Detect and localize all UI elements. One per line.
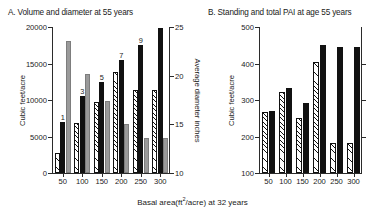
panel-a-bar-value-label: 3 (80, 87, 84, 96)
panel-a-xtick-label: 300 (154, 177, 167, 186)
panel-b-ytick (255, 27, 259, 28)
panel-b-xtick-label: 300 (347, 177, 360, 186)
panel-b-ytick-label: 500 (241, 23, 254, 32)
panel-a-y2tick (170, 173, 174, 174)
panel-a-ylabel-left: Cubic feet/acre (18, 75, 27, 126)
panel-a-bar-black-bar-150: 5 (99, 82, 104, 173)
panel-a-bar-hatched-bar-300 (152, 90, 157, 173)
panel-b-xtick-label: 100 (279, 177, 292, 186)
panel-b-plot-area: 10020030040050050100150200250300 (259, 27, 362, 174)
xaxis-label-suffix: /acre) at 32 years (186, 198, 248, 207)
panel-b-ytick (255, 173, 259, 174)
panel-b-ytick (255, 100, 259, 101)
panel-a-bar-hatched-bar-100 (74, 123, 79, 173)
panel-a-y2tick (170, 27, 174, 28)
panel-a-ytick (48, 173, 52, 174)
panel-a-xtick-label: 250 (134, 177, 147, 186)
panel-a-ytick (48, 64, 52, 65)
panel-a-y2tick-label: 20 (175, 71, 183, 80)
panel-b-bar-standing-pai-150 (296, 118, 302, 173)
panel-a-plot-area: 0500010000150002000010152025501100315052… (52, 27, 170, 174)
shared-xaxis-label: Basal area(ft2/acre) at 32 years (0, 196, 385, 207)
panel-a-ytick (48, 100, 52, 101)
panel-b-bar-total-pai-50 (269, 111, 275, 173)
panel-b-bar-total-pai-100 (286, 88, 292, 173)
figure-root: A. Volume and diameter at 55 years B. St… (0, 0, 385, 218)
panel-b-ytick-label: 400 (241, 59, 254, 68)
panel-b-xtick-label: 250 (330, 177, 343, 186)
panel-a-y2tick (170, 76, 174, 77)
panel-a-ytick-label: 0 (43, 169, 47, 178)
panel-b-left-axis (259, 27, 260, 174)
panel-a-bar-value-label: 9 (139, 36, 143, 45)
xaxis-label-prefix: Basal area(ft (137, 198, 182, 207)
panel-a-bar-black-bar-100: 3 (80, 96, 85, 173)
panel-a-xtick-label: 200 (115, 177, 128, 186)
panel-a-y2tick (170, 124, 174, 125)
panel-b-bar-standing-pai-50 (262, 112, 268, 173)
panel-a-ylabel-right: Average diameter inches (193, 59, 202, 143)
panel-a-bar-hatched-bar-50 (55, 153, 60, 173)
panel-b-bottom-axis (259, 173, 362, 174)
panel-b-bar-standing-pai-300 (347, 143, 353, 173)
panel-b-y2tick (362, 64, 366, 65)
panel-a-bar-black-bar-50: 1 (60, 122, 65, 173)
panel-b-ylabel-left: Cubic feet/acre (227, 75, 236, 126)
panel-a-bar-hatched-bar-150 (94, 102, 99, 173)
panel-a-ytick (48, 137, 52, 138)
panel-a-xtick-label: 50 (59, 177, 67, 186)
panel-b-bar-total-pai-300 (354, 47, 360, 173)
panel-a-bar-hatched-bar-200 (113, 72, 118, 173)
panel-a-ytick-label: 5000 (30, 132, 47, 141)
panel-b-title: B. Standing and total PAI at age 55 year… (208, 8, 351, 17)
panel-a-bar-value-label: 7 (119, 51, 123, 60)
panel-a-title: A. Volume and diameter at 55 years (8, 8, 133, 17)
panel-b-bar-total-pai-200 (320, 45, 326, 173)
panel-b-xtick-label: 150 (296, 177, 309, 186)
panel-a-ytick-label: 20000 (26, 23, 47, 32)
panel-b-y2tick (362, 100, 366, 101)
panel-b-bar-standing-pai-100 (279, 92, 285, 173)
panel-a-bar-black-bar-300 (158, 28, 163, 173)
panel-a-xtick-label: 100 (76, 177, 89, 186)
panel-a-bar-gray-bar-100 (85, 74, 90, 173)
panel-b-ytick-label: 300 (241, 96, 254, 105)
panel-a-bottom-axis (52, 173, 170, 174)
panel-b-xtick-label: 50 (264, 177, 272, 186)
panel-a-bar-value-label: 1 (61, 113, 65, 122)
panel-a-bar-gray-bar-300 (163, 138, 168, 173)
panel-b-bar-standing-pai-200 (313, 62, 319, 173)
panel-a-bar-gray-bar-200 (124, 124, 129, 173)
panel-a-left-axis (52, 27, 53, 174)
panel-a-bar-gray-bar-150 (105, 101, 110, 173)
panel-b-bar-total-pai-250 (337, 47, 343, 173)
panel-a-bar-gray-bar-50 (66, 41, 71, 173)
panel-b-ytick-label: 100 (241, 169, 254, 178)
panel-a-bar-value-label: 5 (100, 73, 104, 82)
panel-a-xtick-label: 150 (95, 177, 108, 186)
panel-b-xtick-label: 200 (313, 177, 326, 186)
panel-a-bar-black-bar-250: 9 (138, 45, 143, 173)
panel-a-y2tick-label: 10 (175, 169, 183, 178)
panel-b-ytick-label: 200 (241, 132, 254, 141)
panel-b-y2tick (362, 137, 366, 138)
panel-a-ytick-label: 10000 (26, 96, 47, 105)
panel-a-y2tick-label: 25 (175, 23, 183, 32)
panel-a-bar-black-bar-200: 7 (119, 60, 124, 173)
panel-a-ytick (48, 27, 52, 28)
panel-b-bar-total-pai-150 (303, 103, 309, 173)
panel-a-bar-gray-bar-250 (144, 138, 149, 173)
panel-a-right-axis (169, 27, 170, 174)
panel-b-ytick (255, 137, 259, 138)
panel-a-ytick-label: 15000 (26, 59, 47, 68)
panel-b-bar-standing-pai-250 (330, 143, 336, 173)
panel-b-ytick (255, 64, 259, 65)
panel-a-bar-hatched-bar-250 (133, 90, 138, 173)
panel-a-y2tick-label: 15 (175, 120, 183, 129)
